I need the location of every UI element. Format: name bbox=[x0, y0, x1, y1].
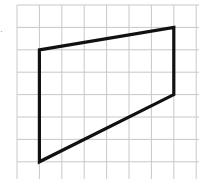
grid-diagram bbox=[0, 0, 199, 179]
grid-lines bbox=[17, 5, 199, 179]
